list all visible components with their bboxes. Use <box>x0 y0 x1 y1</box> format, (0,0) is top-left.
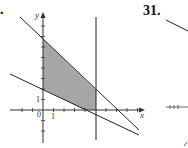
origin-label: 0 <box>37 110 41 119</box>
shaded-region <box>43 39 96 110</box>
x-axis-label: x <box>140 110 144 120</box>
y-unit-label: 1 <box>36 95 40 104</box>
linear-programming-graph <box>0 0 188 148</box>
y-axis-label: y <box>35 10 39 20</box>
y-axis-arrow-icon <box>41 12 46 18</box>
next-figure-fragment <box>184 142 187 146</box>
x-unit-label: 1 <box>51 112 55 121</box>
next-figure-line <box>166 20 188 31</box>
